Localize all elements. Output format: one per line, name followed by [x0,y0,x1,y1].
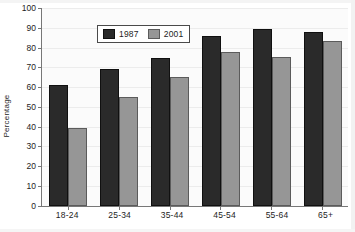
y-axis-tick-label: 30 [27,142,36,151]
y-axis-tick [38,127,42,128]
page-edge-right [351,0,355,232]
bar-1987-25-34 [100,69,119,206]
x-axis-category-label: 25-34 [108,210,131,220]
bar-groups [43,8,348,206]
y-axis-tick [38,107,42,108]
bar-2001-45-54 [221,52,240,206]
page-edge-bottom [0,229,355,232]
y-axis-tick-label: 90 [27,24,36,33]
y-axis-tick-label: 70 [27,63,36,72]
y-axis-tick [38,8,42,9]
x-axis-category-label: 65+ [318,210,333,220]
y-axis-tick-label: 0 [31,202,36,211]
x-axis-category-label: 55-64 [266,210,289,220]
bar-group [304,8,342,206]
bar-2001-18-24 [68,128,87,206]
y-axis-tick-label: 50 [27,103,36,112]
y-axis-tick-label: 100 [22,4,36,13]
bar-1987-35-44 [151,58,170,206]
bar-1987-55-64 [253,29,272,206]
y-axis-tick [38,48,42,49]
chart-legend: 1987 2001 [97,25,190,43]
y-axis-tick [38,67,42,68]
y-axis-tick [38,166,42,167]
bar-2001-65+ [323,41,342,206]
y-axis-tick [38,28,42,29]
bar-group [202,8,240,206]
x-axis-labels: 18-2425-3435-4445-5455-6465+ [41,210,348,220]
plot-area: 1009080706050403020100 1987 2001 [41,8,348,207]
bar-2001-55-64 [272,57,291,206]
y-axis-tick [38,186,42,187]
y-axis-title: Percentage [2,95,11,138]
legend-label-2001: 2001 [164,30,184,39]
legend-swatch-2001 [148,29,160,39]
y-axis-tick [38,146,42,147]
bar-1987-65+ [304,32,323,206]
x-axis-category-label: 35-44 [161,210,184,220]
chart-title-clipped [95,0,295,2]
legend-swatch-1987 [103,29,115,39]
y-axis-tick [38,87,42,88]
legend-entry-2001: 2001 [148,29,184,39]
bar-1987-45-54 [202,36,221,206]
legend-entry-1987: 1987 [103,29,139,39]
y-axis-tick-label: 20 [27,162,36,171]
bar-chart-figure: Percentage 1009080706050403020100 1987 2… [0,0,355,232]
y-axis-tick [38,206,42,207]
x-axis-category-label: 45-54 [213,210,236,220]
y-axis-tick-label: 60 [27,83,36,92]
bar-group [49,8,87,206]
bar-2001-25-34 [119,97,138,206]
legend-label-1987: 1987 [119,30,139,39]
y-axis-tick-label: 40 [27,122,36,131]
bar-group [253,8,291,206]
y-axis-tick-label: 10 [27,182,36,191]
bar-1987-18-24 [49,85,68,206]
y-axis-tick-label: 80 [27,43,36,52]
x-axis-category-label: 18-24 [56,210,79,220]
bar-2001-35-44 [170,77,189,206]
